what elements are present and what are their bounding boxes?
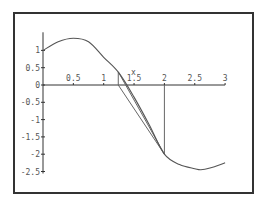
tangent-segment <box>118 85 164 154</box>
y-tick-label: -2 <box>30 150 40 159</box>
y-tick-label: -0.5 <box>21 98 40 107</box>
x-tick-label: 3 <box>223 74 228 83</box>
axes: 0.511.522.5310.50-0.5-1-1.5-2-2.5 <box>21 32 228 176</box>
x-tick-label: 2.5 <box>188 74 203 83</box>
y-tick-label: -1 <box>30 116 40 125</box>
y-tick-label: -1.5 <box>21 133 40 142</box>
x-tick-label: 1 <box>101 74 106 83</box>
x-tick-label: 0.5 <box>66 74 81 83</box>
y-tick-label: 0.5 <box>26 64 41 73</box>
chart-svg: 0.511.522.5310.50-0.5-1-1.5-2-2.5 x <box>0 0 266 209</box>
y-tick-label: 0 <box>35 81 40 90</box>
function-curve <box>43 38 225 170</box>
y-tick-label: 1 <box>35 46 40 55</box>
y-tick-label: -2.5 <box>21 168 40 177</box>
x-tick-label: 2 <box>162 74 167 83</box>
x-axis-label: x <box>131 68 136 77</box>
